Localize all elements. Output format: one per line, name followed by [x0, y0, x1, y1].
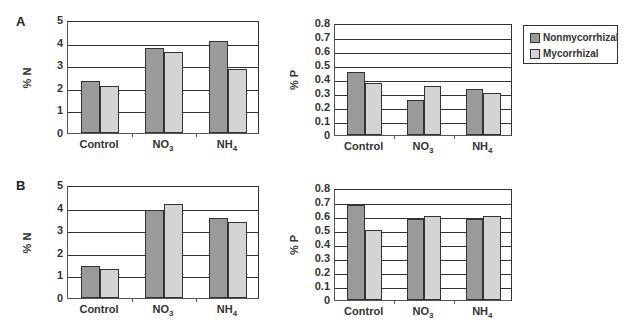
bar-mycorrhizal-control	[365, 83, 382, 135]
y-tick-label: 0.2	[302, 102, 330, 113]
x-tick-label: NO3	[133, 138, 193, 153]
y-tick-label: 1	[35, 270, 63, 281]
y-tick-label: 0.3	[302, 88, 330, 99]
y-tick-label: 2	[35, 83, 63, 94]
swatch-mycorrhizal	[530, 49, 540, 59]
gridline	[335, 39, 511, 40]
bar-nonmycorrhizal-no3	[145, 210, 164, 298]
plot-area	[334, 24, 512, 136]
x-tick-label: NH4	[197, 303, 257, 318]
plot-area	[67, 186, 259, 299]
x-tick-label: NO3	[133, 303, 193, 318]
bar-nonmycorrhizal-nh4	[466, 219, 483, 300]
y-tick-label: 0.5	[302, 225, 330, 236]
bar-mycorrhizal-nh4	[483, 93, 500, 135]
y-tick-label: 5	[35, 15, 63, 26]
x-tick-label: Control	[69, 138, 129, 150]
bar-nonmycorrhizal-no3	[407, 219, 424, 300]
x-tick	[394, 135, 395, 139]
y-tick-label: 4	[35, 203, 63, 214]
y-tick-label: 2	[35, 248, 63, 259]
y-tick-label: 0.4	[302, 239, 330, 250]
bar-nonmycorrhizal-nh4	[466, 89, 483, 135]
legend-label: Nonmycorrhizal	[543, 32, 619, 43]
y-tick-label: 0.1	[302, 281, 330, 292]
x-tick-label: NH4	[197, 138, 257, 153]
gridline	[335, 67, 511, 68]
x-tick	[196, 133, 197, 137]
y-tick-label: 0	[35, 293, 63, 304]
panel-label-b: B	[16, 178, 25, 193]
x-tick	[454, 300, 455, 304]
y-tick-label: 0.2	[302, 267, 330, 278]
y-tick-label: 0	[302, 295, 330, 306]
y-axis-label: % P	[288, 235, 300, 255]
x-tick	[132, 133, 133, 137]
bar-mycorrhizal-control	[100, 86, 119, 133]
panel-label-a: A	[16, 14, 25, 29]
y-tick-label: 3	[35, 225, 63, 236]
legend-label: Mycorrhizal	[543, 48, 599, 59]
x-tick-label: Control	[334, 305, 394, 317]
bar-mycorrhizal-nh4	[228, 69, 247, 133]
x-tick-label: Control	[334, 140, 394, 152]
x-tick-label: Control	[69, 303, 129, 315]
bar-nonmycorrhizal-control	[347, 205, 364, 300]
y-tick-label: 0.6	[302, 211, 330, 222]
y-tick-label: 0	[35, 128, 63, 139]
x-tick-label: NO3	[393, 305, 453, 320]
legend: Nonmycorrhizal Mycorrhizal	[523, 25, 618, 64]
plot-area	[67, 21, 259, 134]
legend-item-mycorrhizal: Mycorrhizal	[530, 48, 599, 59]
legend-item-nonmycorrhizal: Nonmycorrhizal	[530, 32, 619, 43]
bar-mycorrhizal-control	[365, 230, 382, 300]
bar-mycorrhizal-control	[100, 269, 119, 298]
y-tick-label: 0.1	[302, 116, 330, 127]
y-tick-label: 0.8	[302, 183, 330, 194]
bar-nonmycorrhizal-no3	[407, 100, 424, 135]
gridline	[335, 53, 511, 54]
bar-nonmycorrhizal-nh4	[209, 218, 228, 298]
bar-mycorrhizal-nh4	[483, 216, 500, 300]
bar-mycorrhizal-no3	[164, 52, 183, 133]
y-tick-label: 4	[35, 38, 63, 49]
y-tick-label: 0.7	[302, 197, 330, 208]
x-tick	[454, 135, 455, 139]
x-tick	[132, 298, 133, 302]
y-tick-label: 0	[302, 130, 330, 141]
bar-nonmycorrhizal-nh4	[209, 41, 228, 133]
y-tick-label: 1	[35, 105, 63, 116]
y-axis-label: % N	[21, 67, 33, 88]
x-tick	[196, 298, 197, 302]
y-tick-label: 0.8	[302, 18, 330, 29]
swatch-nonmycorrhizal	[530, 33, 540, 43]
plot-area	[334, 189, 512, 301]
bar-nonmycorrhizal-control	[81, 81, 100, 133]
bar-mycorrhizal-no3	[424, 86, 441, 135]
y-tick-label: 0.6	[302, 46, 330, 57]
x-tick-label: NH4	[452, 305, 512, 320]
bar-nonmycorrhizal-no3	[145, 48, 164, 133]
y-tick-label: 5	[35, 180, 63, 191]
x-tick-label: NO3	[393, 140, 453, 155]
y-axis-label: % P	[288, 70, 300, 90]
y-tick-label: 0.4	[302, 74, 330, 85]
gridline	[68, 45, 258, 46]
x-tick	[394, 300, 395, 304]
y-tick-label: 3	[35, 60, 63, 71]
bar-mycorrhizal-nh4	[228, 222, 247, 298]
y-tick-label: 0.7	[302, 32, 330, 43]
x-tick-label: NH4	[452, 140, 512, 155]
bar-mycorrhizal-no3	[424, 216, 441, 300]
y-axis-label: % N	[21, 232, 33, 253]
y-tick-label: 0.3	[302, 253, 330, 264]
bar-nonmycorrhizal-control	[347, 72, 364, 135]
y-tick-label: 0.5	[302, 60, 330, 71]
bar-nonmycorrhizal-control	[81, 266, 100, 298]
bar-mycorrhizal-no3	[164, 204, 183, 298]
